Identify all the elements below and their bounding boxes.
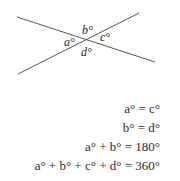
equation-2: b° = d° (35, 118, 160, 137)
angle-label-c: c° (100, 31, 110, 43)
equations-block: a° = c° b° = d° a° + b° = 180° a° + b° +… (35, 99, 160, 175)
equation-4: a° + b° + c° + d° = 360° (35, 156, 160, 175)
angle-label-a: a° (64, 36, 75, 48)
angle-label-d: d° (81, 46, 92, 58)
line-2 (18, 13, 139, 74)
equation-1: a° = c° (35, 99, 160, 118)
angle-label-b: b° (82, 24, 93, 36)
equation-3: a° + b° = 180° (35, 137, 160, 156)
